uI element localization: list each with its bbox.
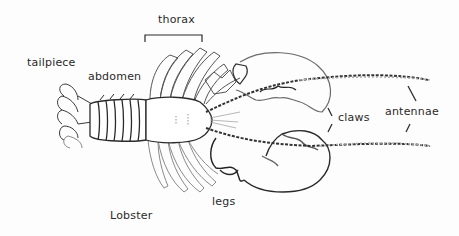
abdomen-segments [90, 94, 146, 141]
lower-claw [211, 131, 330, 192]
upper-legs [150, 48, 240, 104]
label-abdomen: abdomen [88, 71, 141, 83]
lobster-diagram: thorax tailpiece abdomen claws antennae … [0, 0, 459, 236]
label-thorax: thorax [158, 14, 195, 26]
upper-claw [233, 53, 331, 112]
carapace [146, 97, 212, 143]
tailpiece-fan [58, 84, 93, 148]
thorax-bracket [145, 35, 202, 42]
label-legs: legs [212, 196, 235, 208]
diagram-title: Lobster [110, 210, 152, 222]
label-claws: claws [338, 112, 370, 124]
label-tailpiece: tailpiece [27, 57, 76, 69]
lower-legs [148, 140, 218, 192]
label-antennae: antennae [385, 106, 439, 118]
